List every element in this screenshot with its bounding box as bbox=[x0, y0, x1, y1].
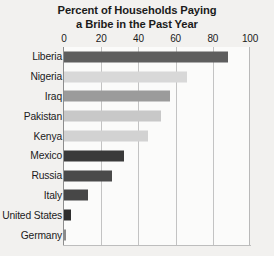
bar-pakistan bbox=[64, 111, 161, 122]
bar-row: Pakistan bbox=[0, 106, 274, 126]
bribe-bar-chart: Percent of Households Paying a Bribe in … bbox=[0, 0, 274, 256]
x-axis-line bbox=[63, 245, 251, 246]
x-tick-label-60: 60 bbox=[170, 33, 181, 44]
bar-row: Liberia bbox=[0, 47, 274, 67]
bar-united-states bbox=[64, 210, 71, 221]
bar-kenya bbox=[64, 131, 148, 142]
category-label-iraq: Iraq bbox=[0, 91, 62, 102]
category-label-mexico: Mexico bbox=[0, 150, 62, 161]
category-label-italy: Italy bbox=[0, 190, 62, 201]
bar-row: Italy bbox=[0, 186, 274, 206]
bar-iraq bbox=[64, 91, 170, 102]
category-label-germany: Germany bbox=[0, 230, 62, 241]
bar-row: Mexico bbox=[0, 146, 274, 166]
category-label-russia: Russia bbox=[0, 170, 62, 181]
chart-title-line-2: a Bribe in the Past Year bbox=[0, 18, 274, 32]
bar-row: Kenya bbox=[0, 126, 274, 146]
x-tick-label-20: 20 bbox=[96, 33, 107, 44]
category-label-pakistan: Pakistan bbox=[0, 111, 62, 122]
chart-title-line-1: Percent of Households Paying bbox=[0, 4, 274, 18]
category-label-nigeria: Nigeria bbox=[0, 71, 62, 82]
bar-italy bbox=[64, 190, 88, 201]
bar-row: Germany bbox=[0, 225, 274, 245]
bar-row: Nigeria bbox=[0, 67, 274, 87]
x-tick-label-40: 40 bbox=[133, 33, 144, 44]
x-tick-label-100: 100 bbox=[242, 33, 258, 44]
category-label-kenya: Kenya bbox=[0, 131, 62, 142]
category-label-united-states: United States bbox=[0, 210, 62, 221]
x-tick-label-80: 80 bbox=[207, 33, 218, 44]
x-axis-tick-labels: 020406080100 bbox=[0, 33, 274, 46]
bar-germany bbox=[64, 230, 66, 241]
chart-title: Percent of Households Paying a Bribe in … bbox=[0, 4, 274, 31]
bar-liberia bbox=[64, 51, 228, 62]
x-tick-label-0: 0 bbox=[61, 33, 66, 44]
bar-row: Russia bbox=[0, 166, 274, 186]
bar-row: United States bbox=[0, 205, 274, 225]
category-label-liberia: Liberia bbox=[0, 51, 62, 62]
bar-nigeria bbox=[64, 71, 187, 82]
bar-mexico bbox=[64, 150, 124, 161]
bar-russia bbox=[64, 170, 112, 181]
bar-row: Iraq bbox=[0, 87, 274, 107]
bar-rows: LiberiaNigeriaIraqPakistanKenyaMexicoRus… bbox=[0, 47, 274, 245]
